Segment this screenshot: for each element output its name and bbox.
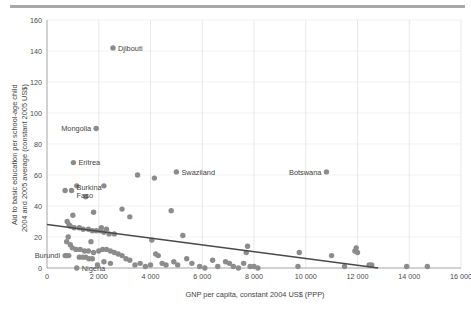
annotation-label: Eritrea <box>78 158 101 167</box>
gridlines <box>47 20 461 268</box>
x-tick-label: 16 000 <box>450 272 471 281</box>
data-point <box>66 234 71 239</box>
x-tick-label: 12 000 <box>347 272 369 281</box>
data-point <box>175 262 180 267</box>
data-point <box>71 160 76 165</box>
data-point <box>152 175 157 180</box>
data-point <box>184 256 189 261</box>
x-tick-label: 0 <box>45 272 49 281</box>
x-tick-label: 6 000 <box>193 272 211 281</box>
data-point <box>241 261 246 266</box>
annotation-label: Mongolia <box>61 124 92 133</box>
data-point <box>110 45 115 50</box>
data-point <box>255 265 260 270</box>
data-point <box>324 169 329 174</box>
data-point <box>354 245 359 250</box>
data-point <box>90 256 95 261</box>
annotation-label: Swaziland <box>181 168 215 177</box>
data-point <box>127 258 132 263</box>
data-point <box>215 264 220 269</box>
data-point <box>91 210 96 215</box>
data-point <box>99 225 104 230</box>
data-point <box>297 250 302 255</box>
y-tick-label: 160 <box>30 16 42 25</box>
x-axis-ticks: 02 0004 0006 0008 00010 00012 00014 0001… <box>45 272 471 281</box>
data-point <box>163 262 168 267</box>
y-axis-title-line1: Aid to basic education per school-age ch… <box>10 84 19 225</box>
x-tick-label: 4 000 <box>142 272 160 281</box>
y-axis-ticks: 020406080100120140160 <box>30 16 42 273</box>
annotation-label: Faso <box>77 191 93 200</box>
data-point <box>91 250 96 255</box>
data-point <box>143 264 148 269</box>
data-point <box>104 227 109 232</box>
y-tick-label: 80 <box>34 140 42 149</box>
scatter-chart: 020406080100120140160 02 0004 0006 0008 … <box>0 0 471 309</box>
data-point <box>245 244 250 249</box>
data-point <box>66 253 71 258</box>
data-point <box>93 126 98 131</box>
data-point <box>137 261 142 266</box>
data-point <box>174 169 179 174</box>
data-point <box>180 233 185 238</box>
y-tick-label: 60 <box>34 171 42 180</box>
annotation-label: Botswana <box>289 168 322 177</box>
data-point <box>101 183 106 188</box>
x-axis-title: GNP per capita, constant 2004 US$ (PPP) <box>185 290 324 299</box>
annotation-label: Burundi <box>35 251 61 260</box>
data-point <box>329 253 334 258</box>
data-point <box>132 262 137 267</box>
annotation-label: Nigeria <box>82 264 106 273</box>
chart-svg: 020406080100120140160 02 0004 0006 0008 … <box>0 0 471 309</box>
annotation-label: Djibouti <box>118 44 143 53</box>
data-point <box>70 213 75 218</box>
data-point <box>119 206 124 211</box>
data-point <box>86 248 91 253</box>
data-point <box>425 264 430 269</box>
x-tick-label: 8 000 <box>245 272 263 281</box>
data-point <box>156 253 161 258</box>
data-point <box>169 208 174 213</box>
data-point <box>108 261 113 266</box>
data-point <box>236 265 241 270</box>
data-point <box>231 264 236 269</box>
y-tick-label: 0 <box>38 264 42 273</box>
y-tick-label: 100 <box>30 109 42 118</box>
data-point <box>148 262 153 267</box>
data-point <box>210 258 215 263</box>
y-tick-label: 140 <box>30 47 42 56</box>
x-tick-label: 10 000 <box>295 272 317 281</box>
data-point <box>127 214 132 219</box>
data-point <box>295 264 300 269</box>
data-point <box>189 261 194 266</box>
y-axis-title-line2: 2004 and 2005 average (constant 2005 US$… <box>20 84 29 232</box>
data-point <box>404 264 409 269</box>
data-point <box>202 265 207 270</box>
point-annotations: DjiboutiMongoliaEritreaBurkinaFasoSwazil… <box>35 44 323 273</box>
y-tick-label: 40 <box>34 202 42 211</box>
data-point <box>135 172 140 177</box>
data-point <box>74 265 79 270</box>
x-tick-label: 2 000 <box>90 272 108 281</box>
data-point <box>197 264 202 269</box>
data-point <box>355 250 360 255</box>
y-tick-label: 20 <box>34 233 42 242</box>
data-point <box>88 239 93 244</box>
data-point <box>69 188 74 193</box>
data-point <box>62 188 67 193</box>
x-tick-label: 14 000 <box>398 272 420 281</box>
y-tick-label: 120 <box>30 78 42 87</box>
